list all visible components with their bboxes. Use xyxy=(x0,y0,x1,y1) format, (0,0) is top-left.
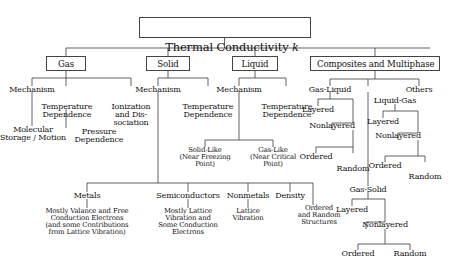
node-gas: Gas xyxy=(46,56,86,71)
node-gas-mechanism: Mechanism xyxy=(2,86,62,94)
node-liquid-gas-nonlayered: Nonlayered xyxy=(368,132,428,140)
node-gas-solid: Gas-Solid xyxy=(340,186,396,194)
node-gas-pressure-dependence: Pressure Dependence xyxy=(68,128,130,144)
node-density: Density xyxy=(263,192,317,200)
node-gas-liquid-ordered: Ordered xyxy=(294,153,338,161)
node-liquid-gas-random: Random xyxy=(403,173,447,181)
node-gas-ionization-and-dissociation: Ionization and Dis- sociation xyxy=(104,103,158,127)
node-solid-mechanism: Mechanism xyxy=(128,86,188,94)
node-semiconductors-detail: Mostly Lattice Vibration and Some Conduc… xyxy=(146,208,230,236)
node-liquid-mechanism: Mechanism xyxy=(209,86,269,94)
node-solid-temperature-dependence: Temperature Dependence xyxy=(177,103,239,119)
node-gas-liquid-nonlayered: Nonlayered xyxy=(302,122,362,130)
thermal-conductivity-tree-diagram: Thermal Conductivity k Gas Solid Liquid … xyxy=(0,0,450,268)
node-others: Others xyxy=(396,86,442,94)
node-metals-detail: Mostly Valance and Free Conduction Elect… xyxy=(12,208,162,236)
node-solid-like-near-freezing-point: Solid-Like (Near Freezing Point) xyxy=(172,147,238,168)
node-gas-solid-random: Random xyxy=(388,250,432,258)
root-label-k: k xyxy=(292,40,299,54)
node-gas-liquid-layered: Layered xyxy=(295,106,341,114)
node-liquid-gas: Liquid-Gas xyxy=(366,97,424,105)
node-liquid-gas-ordered: Ordered xyxy=(363,162,407,170)
root-node-thermal-conductivity: Thermal Conductivity k xyxy=(139,17,311,38)
node-composites-and-multiphase: Composites and Multiphase xyxy=(310,56,440,71)
node-gas-molecular-storage-motion: Molecular Storage / Motion xyxy=(0,126,68,142)
node-gas-solid-layered: Layered xyxy=(329,206,375,214)
node-liquid: Liquid xyxy=(232,56,278,71)
node-gas-temperature-dependence: Temperature Dependence xyxy=(36,103,98,119)
node-nonmetals-detail: Lattice Vibration xyxy=(221,208,275,222)
node-gas-liquid: Gas-Liquid xyxy=(300,86,360,94)
node-gas-solid-ordered: Ordered xyxy=(336,250,380,258)
node-solid: Solid xyxy=(146,56,190,71)
node-liquid-gas-layered: Layered xyxy=(360,118,406,126)
node-gas-solid-nonlayered: Nonlayered xyxy=(355,221,415,229)
node-metals: Metals xyxy=(57,192,117,200)
root-label: Thermal Conductivity xyxy=(165,40,292,54)
